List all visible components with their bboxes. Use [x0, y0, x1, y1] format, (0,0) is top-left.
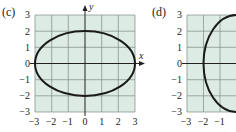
- svg-text:−1: −1: [171, 74, 182, 85]
- svg-text:1: 1: [99, 116, 104, 127]
- panel-c: (c) x y 3 2 1 0 −1: [2, 1, 145, 127]
- svg-text:0: 0: [83, 116, 88, 127]
- svg-text:2: 2: [25, 26, 30, 37]
- figure: (c) x y 3 2 1 0 −1: [0, 0, 236, 132]
- panel-d-y-tick-labels: 3 2 1 0 −1 −2 −3: [171, 9, 182, 117]
- svg-text:−2: −2: [171, 90, 182, 101]
- svg-text:−1: −1: [214, 116, 225, 127]
- panel-c-x-tick-labels: −3 −2 −1 0 1 2 3: [29, 116, 138, 127]
- panel-c-y-tick-labels: 3 2 1 0 −1 −2 −3: [19, 9, 30, 117]
- svg-text:−3: −3: [181, 116, 192, 127]
- panel-d: (d) 3 2 1 0 −1 −2 −3 −3 −2 −1: [152, 5, 236, 127]
- svg-text:2: 2: [116, 116, 121, 127]
- panel-c-label: (c): [2, 5, 15, 19]
- panel-d-label: (d): [152, 5, 166, 19]
- svg-text:−1: −1: [62, 116, 73, 127]
- svg-text:0: 0: [25, 58, 30, 69]
- panel-c-x-axis-arrow-icon: [139, 61, 145, 66]
- panel-c-y-axis-label: y: [88, 1, 94, 12]
- svg-text:1: 1: [177, 42, 182, 53]
- panel-c-x-axis-label: x: [138, 50, 144, 61]
- svg-text:3: 3: [25, 9, 30, 20]
- svg-text:−2: −2: [46, 116, 57, 127]
- svg-text:−2: −2: [19, 90, 30, 101]
- svg-text:0: 0: [177, 58, 182, 69]
- panel-c-y-axis-arrow-icon: [83, 5, 88, 11]
- svg-text:−3: −3: [29, 116, 40, 127]
- panel-d-x-tick-labels: −3 −2 −1: [181, 116, 225, 127]
- svg-text:−1: −1: [19, 74, 30, 85]
- svg-text:2: 2: [177, 26, 182, 37]
- svg-text:3: 3: [133, 116, 138, 127]
- svg-text:3: 3: [177, 9, 182, 20]
- svg-text:1: 1: [25, 42, 30, 53]
- svg-text:−2: −2: [198, 116, 209, 127]
